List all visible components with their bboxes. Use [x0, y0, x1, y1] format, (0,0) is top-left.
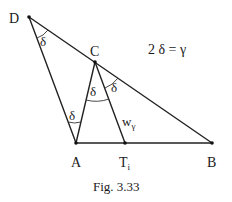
equation-text: 2 δ = γ: [148, 42, 186, 57]
angle-label-D: δ: [40, 34, 46, 49]
label-A: A: [71, 155, 82, 170]
segment-CA: [76, 62, 95, 143]
figure-caption: Fig. 3.33: [93, 179, 140, 194]
geometry-diagram: D C A Ti B δ δ δ δ wγ 2 δ = γ Fig. 3.33: [0, 0, 232, 202]
angle-label-C-right: δ: [111, 80, 117, 95]
label-w-gamma: wγ: [122, 114, 135, 131]
point-A: [74, 141, 78, 145]
point-B: [210, 141, 214, 145]
angle-label-C-left: δ: [90, 84, 96, 99]
angle-arc-C-inner: [86, 99, 109, 101]
label-C: C: [90, 44, 99, 59]
point-C: [93, 60, 97, 64]
label-B: B: [207, 155, 216, 170]
segment-DA: [29, 17, 76, 143]
point-D: [27, 15, 31, 19]
angle-label-A: δ: [69, 108, 75, 123]
segment-DB: [29, 17, 212, 143]
segment-CT-bisector: [95, 62, 125, 143]
label-T: Ti: [119, 155, 131, 172]
label-D: D: [9, 11, 19, 26]
point-T: [123, 141, 127, 145]
